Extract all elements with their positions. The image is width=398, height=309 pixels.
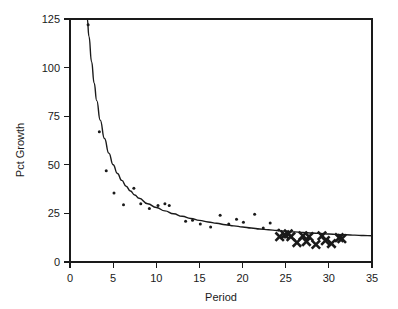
x-tick-label: 25 [280, 272, 292, 284]
x-axis-ticks [70, 262, 372, 268]
scatter-point [148, 207, 151, 210]
scatter-point [168, 204, 171, 207]
scatter-point [235, 218, 238, 221]
y-tick-label: 125 [42, 13, 60, 25]
scatter-point [139, 202, 142, 205]
scatter-point [122, 203, 125, 206]
y-axis-tick-labels: 0255075100125 [42, 13, 60, 268]
x-tick-label: 30 [323, 272, 335, 284]
scatter-point [242, 221, 245, 224]
y-tick-label: 50 [48, 159, 60, 171]
y-axis-ticks [64, 19, 70, 262]
scatter-point [269, 222, 272, 225]
axis-frame [70, 19, 372, 262]
y-tick-label: 100 [42, 62, 60, 74]
scatter-point [163, 202, 166, 205]
scatter-point [157, 204, 160, 207]
plot-frame [70, 19, 372, 262]
scatter-dot-series [87, 23, 281, 231]
scatter-point [253, 213, 256, 216]
x-tick-label: 35 [366, 272, 378, 284]
y-tick-label: 0 [54, 256, 60, 268]
scatter-point [98, 130, 101, 133]
fitted-decay-curve [87, 19, 372, 236]
x-tick-label: 20 [236, 272, 248, 284]
scatter-point [199, 223, 202, 226]
scatter-point [184, 220, 187, 223]
x-tick-label: 15 [193, 272, 205, 284]
scatter-point [87, 23, 90, 26]
scatter-point [262, 226, 265, 229]
scatter-point [277, 228, 280, 231]
x-axis-title: Period [205, 291, 237, 303]
scatter-point [132, 187, 135, 190]
x-tick-label: 5 [110, 272, 116, 284]
scatter-plot-canvas: 0255075100125 05101520253035 Pct Growth … [0, 0, 398, 309]
y-tick-label: 25 [48, 207, 60, 219]
scatter-point [209, 226, 212, 229]
scatter-x-marker [312, 240, 320, 248]
chart-figure: 0255075100125 05101520253035 Pct Growth … [0, 0, 398, 309]
y-axis-title: Pct Growth [14, 123, 26, 177]
scatter-point [219, 214, 222, 217]
scatter-point [113, 191, 116, 194]
x-axis-tick-labels: 05101520253035 [67, 272, 378, 284]
fitted-curve-layer [87, 19, 372, 236]
y-tick-label: 75 [48, 110, 60, 122]
scatter-point [105, 169, 108, 172]
scatter-point [191, 219, 194, 222]
x-tick-label: 0 [67, 272, 73, 284]
scatter-point [227, 223, 230, 226]
x-tick-label: 10 [150, 272, 162, 284]
